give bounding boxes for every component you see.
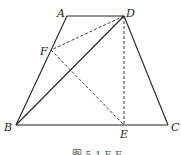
label-c: C: [171, 121, 180, 134]
label-a: A: [56, 7, 65, 20]
label-f: F: [39, 45, 48, 58]
segment-ab: [16, 16, 67, 125]
figure-caption: 图 5-1 E F: [72, 149, 122, 155]
label-e: E: [119, 128, 128, 141]
segment-dc: [124, 16, 168, 125]
label-d: D: [125, 7, 135, 20]
geometry-diagram: A D F B E C 图 5-1 E F: [0, 0, 181, 155]
segment-fe-dashed: [51, 50, 124, 125]
segment-df-dashed: [51, 16, 124, 50]
label-b: B: [3, 121, 12, 134]
